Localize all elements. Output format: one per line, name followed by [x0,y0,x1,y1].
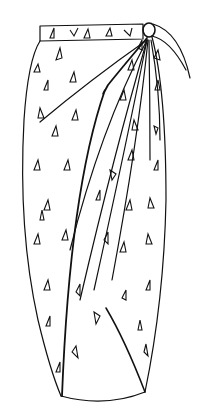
wrap-front-edge [62,38,147,396]
knot [143,23,155,37]
wrap-overlap-edge [106,308,145,392]
fold [70,40,147,250]
triangle-pattern [34,28,160,372]
hem [61,392,145,401]
skirt-left-outline [23,41,61,396]
sarong-skirt-drawing [0,0,201,420]
fold [149,40,150,160]
waistband [40,24,143,41]
fold [40,40,147,122]
